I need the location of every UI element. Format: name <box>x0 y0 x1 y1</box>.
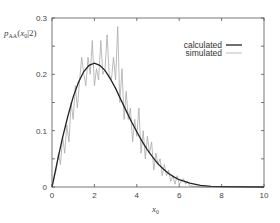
x-axis-label: x0 <box>151 204 159 215</box>
x-tick-label: 8 <box>219 191 224 200</box>
y-tick-label: 0 <box>43 183 48 192</box>
y-tick-label: 0.3 <box>36 14 48 23</box>
legend-label-simulated: simulated <box>186 48 223 58</box>
x-tick-label: 0 <box>50 191 55 200</box>
y-tick-label: 0.2 <box>36 70 48 79</box>
axis-ticks <box>52 18 264 187</box>
x-tick-label: 2 <box>92 191 97 200</box>
x-tick-label: 4 <box>135 191 140 200</box>
y-axis-label: pAA(x0|2) <box>3 28 36 39</box>
plot-frame <box>52 18 264 187</box>
x-tick-label: 6 <box>177 191 182 200</box>
y-tick-label: 0.1 <box>36 127 48 136</box>
legend: calculated simulated <box>184 40 242 58</box>
x-tick-label: 10 <box>260 191 269 200</box>
calculated-series-line <box>52 63 264 187</box>
chart: 024681000.10.20.3 pAA(x0|2) x0 calculate… <box>0 0 280 223</box>
plot-area <box>52 27 264 188</box>
